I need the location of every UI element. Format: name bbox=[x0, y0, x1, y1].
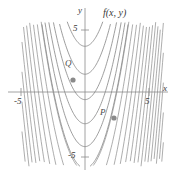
point-label-q: Q bbox=[65, 59, 72, 68]
y-tick-label-neg5: -5 bbox=[68, 151, 76, 160]
x-tick-label-neg5: -5 bbox=[14, 97, 22, 106]
y-tick-label-5: 5 bbox=[73, 24, 78, 33]
point-marker-q bbox=[70, 77, 75, 82]
surface-function-label: f(x, y) bbox=[103, 8, 126, 18]
level-curve-group bbox=[22, 22, 163, 166]
y-axis-label: y bbox=[78, 6, 82, 15]
level-curve bbox=[162, 143, 164, 161]
point-marker-p bbox=[111, 115, 116, 120]
contour-plot-figure: f(x, y) y x -5 5 5 -5 P Q bbox=[0, 0, 174, 173]
x-axis-label: x bbox=[163, 84, 167, 93]
level-curve bbox=[154, 53, 163, 158]
x-tick-label-5: 5 bbox=[145, 97, 150, 106]
level-curves-canvas bbox=[0, 0, 174, 173]
point-label-p: P bbox=[100, 108, 106, 117]
